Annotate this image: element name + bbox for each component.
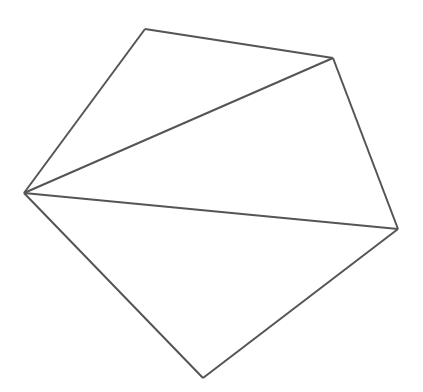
pentagon-diagram — [0, 0, 423, 392]
diagonal-ec — [24, 193, 398, 229]
edge-bc — [333, 58, 398, 229]
edge-ea — [24, 29, 145, 193]
diagonal-eb — [24, 58, 333, 193]
edge-ab — [145, 29, 333, 58]
edge-cd — [203, 229, 398, 378]
edge-de — [24, 193, 203, 378]
